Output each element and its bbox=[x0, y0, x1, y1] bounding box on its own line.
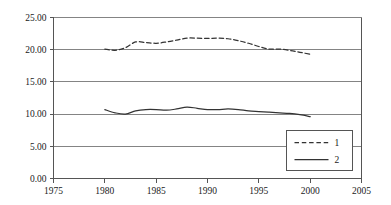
series-line-1 bbox=[105, 38, 310, 54]
legend-box bbox=[287, 131, 353, 171]
x-axis-tick-label: 1995 bbox=[249, 186, 268, 196]
y-axis-tick-label: 0.00 bbox=[30, 174, 47, 184]
x-axis-tick-label: 1985 bbox=[147, 186, 166, 196]
series-line-2 bbox=[105, 107, 310, 117]
legend-label-2: 2 bbox=[335, 155, 340, 165]
x-axis-tick-label: 1980 bbox=[95, 186, 114, 196]
legend-label-1: 1 bbox=[335, 138, 340, 148]
y-axis-tick-label: 20.00 bbox=[25, 45, 47, 55]
y-axis-tick-label: 10.00 bbox=[25, 109, 47, 119]
x-axis-tick-label: 2005 bbox=[352, 186, 371, 196]
y-axis-tick-label: 5.00 bbox=[30, 142, 47, 152]
x-axis-tick-label: 1975 bbox=[44, 186, 63, 196]
line-chart: 0.005.0010.0015.0020.0025.00197519801985… bbox=[0, 0, 391, 205]
y-axis-tick-label: 15.00 bbox=[25, 77, 47, 87]
x-axis-tick-label: 1990 bbox=[198, 186, 217, 196]
y-axis-tick-label: 25.00 bbox=[25, 13, 47, 23]
x-axis-tick-label: 2000 bbox=[301, 186, 320, 196]
chart-canvas: 0.005.0010.0015.0020.0025.00197519801985… bbox=[0, 0, 391, 205]
